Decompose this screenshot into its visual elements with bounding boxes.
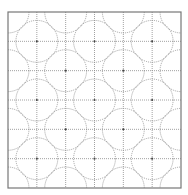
- node-dot: [93, 40, 95, 42]
- arc-circle: [160, 167, 188, 195]
- node-dot: [151, 158, 153, 160]
- node-dot: [93, 158, 95, 160]
- node-dot: [151, 40, 153, 42]
- node-dot: [151, 99, 153, 101]
- arc-circle: [0, 167, 29, 195]
- node-dot: [36, 99, 38, 101]
- node-dot: [65, 70, 67, 72]
- node-dot: [122, 70, 124, 72]
- arc-layer: [0, 0, 188, 195]
- arc-circle: [160, 0, 188, 33]
- node-dot: [93, 99, 95, 101]
- node-dot: [65, 128, 67, 130]
- node-dot: [36, 40, 38, 42]
- node-dot: [36, 158, 38, 160]
- arc-circle: [0, 0, 29, 33]
- arc-circle: [102, 167, 144, 195]
- arc-circle: [45, 167, 87, 195]
- pattern-diagram: [0, 0, 188, 195]
- node-dot: [122, 128, 124, 130]
